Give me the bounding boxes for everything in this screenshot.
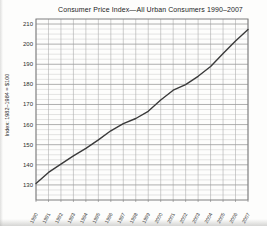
cpi-chart-figure: Consumer Price Index—All Urban Consumers… (0, 0, 267, 226)
x-tick-label: 1999 (141, 211, 152, 224)
y-tick-label: 180 (23, 81, 34, 87)
x-tick-label: 2001 (166, 211, 177, 224)
x-tick-label: 2003 (190, 211, 201, 224)
y-tick-label: 170 (23, 101, 34, 107)
x-tick-label: 1997 (116, 211, 127, 224)
y-tick-label: 160 (23, 122, 34, 128)
x-tick-label: 1996 (103, 211, 114, 224)
x-tick-label: 2002 (178, 211, 189, 224)
y-tick-label: 150 (23, 142, 34, 148)
y-tick-label: 190 (23, 61, 34, 67)
y-tick-label: 130 (23, 182, 34, 188)
x-tick-label: 2007 (240, 211, 251, 224)
x-tick-label: 2004 (203, 211, 214, 224)
x-tick-label: 2000 (153, 211, 164, 224)
x-tick-label: 1991 (41, 211, 52, 224)
y-tick-label: 140 (23, 162, 34, 168)
x-tick-label: 2005 (215, 211, 226, 224)
x-tick-label: 1992 (53, 211, 64, 224)
chart-plot-svg: 1301401501601701801902002101990199119921… (0, 0, 267, 226)
cpi-line (36, 30, 248, 184)
x-tick-label: 1998 (128, 211, 139, 224)
x-tick-label: 1993 (66, 211, 77, 224)
y-tick-label: 210 (23, 21, 34, 27)
y-tick-label: 200 (23, 41, 34, 47)
x-tick-label: 2006 (228, 211, 239, 224)
x-tick-label: 1995 (91, 211, 102, 224)
x-tick-label: 1990 (28, 211, 39, 224)
x-tick-label: 1994 (78, 211, 89, 224)
